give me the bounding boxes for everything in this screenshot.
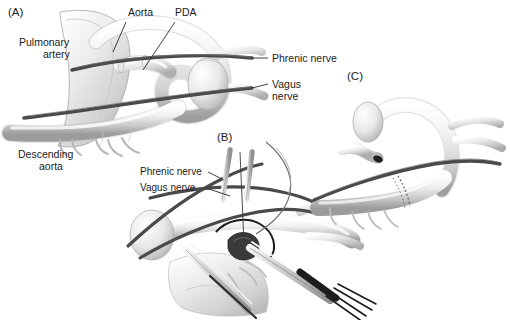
- panel-c-branch-2: [456, 139, 502, 148]
- panel-label-a: (A): [8, 6, 23, 20]
- clip-applier: [250, 242, 376, 320]
- panel-c-artwork: [314, 102, 502, 229]
- clip-applier-handle-tines: [326, 284, 376, 320]
- annotation-vagus-nerve-b: Vagus nerve: [140, 182, 195, 194]
- panel-c-pa-branch: [342, 149, 368, 154]
- annotation-phrenic-nerve-b: Phrenic nerve: [140, 166, 202, 178]
- annotation-pulmonary-artery-line2: artery: [43, 48, 70, 60]
- annotation-descending-aorta-line1: Descending: [18, 148, 73, 160]
- panel-label-c: (C): [347, 70, 363, 84]
- medical-illustration-figure: (A) Pulmonary artery Aorta PDA Phrenic n…: [0, 0, 510, 320]
- annotation-pda: PDA: [175, 6, 197, 18]
- annotation-aorta: Aorta: [128, 6, 153, 18]
- panel-c-ascending-stump: [353, 102, 383, 142]
- annotation-pulmonary-artery-line1: Pulmonary: [19, 36, 69, 48]
- vagus-leader-line-a: [252, 84, 268, 88]
- panel-label-b: (B): [217, 131, 232, 145]
- annotation-vagus-nerve-a-line1: Vagus: [272, 78, 301, 90]
- phrenic-leader-line-b: [208, 172, 224, 180]
- panel-a-artwork: [0, 0, 510, 320]
- needle-thread: [240, 152, 244, 244]
- annotation-descending-aorta-line2: aorta: [39, 160, 63, 172]
- annotation-vagus-nerve-a-line2: nerve: [272, 90, 298, 102]
- annotation-phrenic-nerve-a: Phrenic nerve: [272, 52, 337, 64]
- panel-b-retractors: [222, 150, 252, 200]
- panel-c-branch-1: [452, 120, 500, 126]
